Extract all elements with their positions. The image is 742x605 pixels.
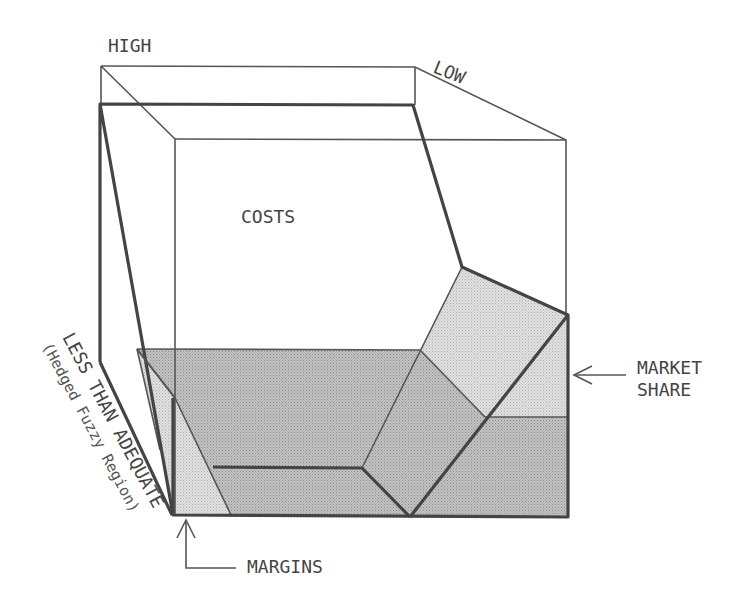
market-share-arrow-icon xyxy=(574,366,626,384)
fuzzy-region-cube-diagram: HIGH LOW COSTS MARKET SHARE MARGINS LESS… xyxy=(0,0,742,605)
high-label: HIGH xyxy=(108,35,151,56)
low-label: LOW xyxy=(431,56,469,88)
margins-arrow-icon xyxy=(177,520,236,568)
costs-label: COSTS xyxy=(241,206,295,227)
margins-label: MARGINS xyxy=(247,556,323,577)
market-share-label-line2: SHARE xyxy=(637,379,691,400)
shaded-regions xyxy=(137,267,568,517)
market-share-label-line1: MARKET xyxy=(637,357,702,378)
